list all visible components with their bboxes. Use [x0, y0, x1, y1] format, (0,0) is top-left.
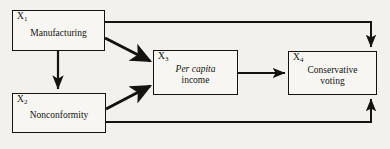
node-x3-label-plain: income	[182, 75, 210, 85]
path-diagram: X1 Manufacturing X2 Nonconformity X3 Per…	[0, 0, 390, 149]
node-x4-conservative-voting: X4 Conservative voting	[288, 51, 377, 95]
node-x4-label-line1: Conservative	[307, 65, 357, 75]
node-x4-label-line2: voting	[320, 76, 344, 86]
node-x1-tag: X1	[17, 12, 27, 22]
node-x3-label-italic: Per capita	[176, 64, 216, 74]
edge-x2-to-x3	[106, 86, 150, 109]
node-x3-label: Per capita income	[154, 64, 237, 85]
node-x1-manufacturing: X1 Manufacturing	[12, 10, 105, 51]
node-x1-label: Manufacturing	[13, 28, 104, 39]
node-x4-tag: X4	[293, 53, 303, 63]
node-x2-nonconformity: X2 Nonconformity	[12, 93, 106, 133]
node-x3-tag: X3	[158, 52, 168, 62]
node-x2-tag: X2	[17, 95, 27, 105]
edge-x1-to-x4	[105, 22, 371, 47]
node-x2-label: Nonconformity	[13, 110, 105, 121]
edge-x1-to-x3	[105, 38, 150, 61]
node-x3-per-capita-income: X3 Per capita income	[153, 50, 238, 95]
node-x4-label: Conservative voting	[289, 65, 376, 86]
edge-x2-to-x4	[106, 99, 371, 122]
